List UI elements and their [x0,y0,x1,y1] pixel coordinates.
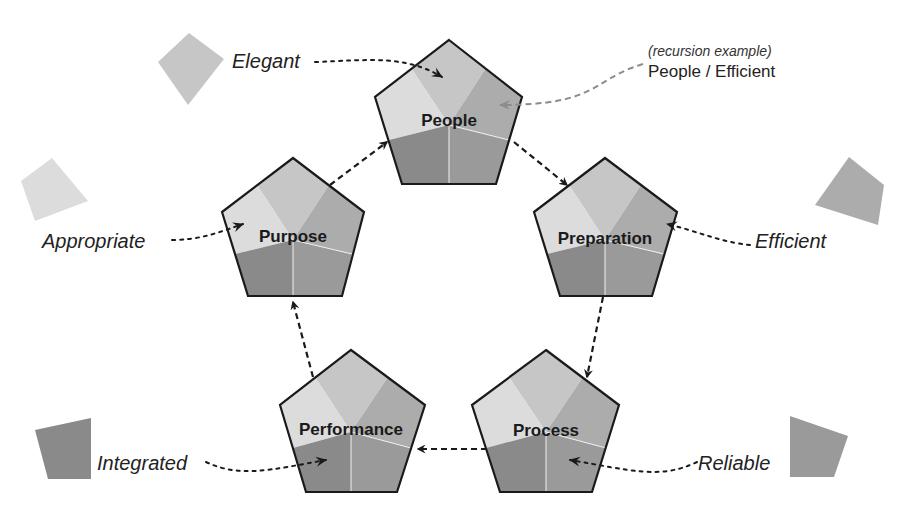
quality-label-reliable: Reliable [698,452,770,474]
quality-label-elegant: Elegant [232,50,301,72]
node-label-process: Process [513,421,579,440]
recursion-caption: (recursion example) [648,43,772,59]
pentagon-cycle-diagram: People Purpose Preparation [0,0,916,519]
cycle-arrow-performance-to-purpose [293,302,313,377]
node-label-performance: Performance [299,420,403,439]
node-performance: Performance [280,350,425,492]
node-preparation: Preparation [534,158,677,296]
quality-swatch-integrated [35,418,91,479]
quality-swatch-efficient [815,157,884,225]
cycle-arrow-people-to-preparation [514,142,567,185]
quality-arrow-efficient [667,224,750,245]
cycle-arrow-preparation-to-process [587,297,603,377]
node-label-people: People [421,111,477,130]
quality-swatch-appropriate [21,158,88,221]
recursion-label: People / Efficient [648,62,776,81]
quality-label-integrated: Integrated [97,452,188,474]
quality-label-appropriate: Appropriate [41,230,145,252]
quality-swatch-reliable [790,416,848,477]
node-purpose: Purpose [222,158,364,296]
node-process: Process [472,350,619,492]
node-label-purpose: Purpose [259,227,327,246]
quality-swatch-elegant [158,33,224,105]
cycle-arrow-purpose-to-people [330,142,387,185]
node-label-preparation: Preparation [558,229,652,248]
quality-label-efficient: Efficient [755,230,828,252]
